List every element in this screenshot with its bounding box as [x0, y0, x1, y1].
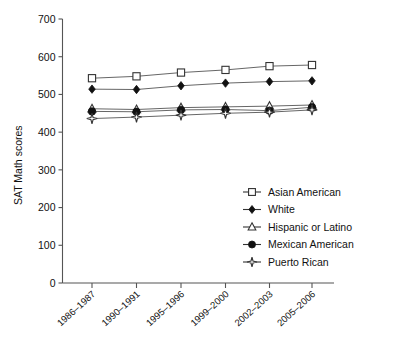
- sat-math-scores-chart: SAT Math scores 0100200300400500600700 1…: [0, 0, 409, 343]
- marker-filled-diamond: [266, 77, 273, 85]
- plot-series-group: [87, 61, 317, 123]
- legend-item-asian-american[interactable]: Asian American: [243, 186, 341, 198]
- marker-open-square: [133, 73, 140, 80]
- series-line: [92, 105, 312, 110]
- series-line: [92, 65, 312, 78]
- y-tick-label: 200: [38, 201, 56, 213]
- legend-label: Puerto Rican: [268, 256, 329, 268]
- marker-open-star: [87, 113, 97, 123]
- marker-filled-diamond: [133, 85, 140, 93]
- legend-label: Hispanic or Latino: [268, 221, 352, 233]
- chart-legend: Asian AmericanWhiteHispanic or LatinoMex…: [243, 186, 354, 268]
- marker-filled-circle: [248, 241, 255, 248]
- y-tick-label: 600: [38, 51, 56, 63]
- y-tick-label: 400: [38, 126, 56, 138]
- marker-filled-diamond: [89, 85, 96, 93]
- series-line: [92, 81, 312, 90]
- y-tick-label: 100: [38, 239, 56, 251]
- marker-open-square: [177, 69, 184, 76]
- marker-open-square: [308, 61, 315, 68]
- marker-filled-diamond: [222, 79, 229, 87]
- marker-open-square: [266, 63, 273, 70]
- marker-open-square: [222, 66, 229, 73]
- legend-item-mexican-american[interactable]: Mexican American: [243, 238, 354, 250]
- x-tick-label: 1995–1996: [144, 288, 187, 328]
- chart-svg: SAT Math scores 0100200300400500600700 1…: [0, 0, 409, 343]
- legend-label: Asian American: [268, 186, 341, 198]
- series-line: [92, 110, 312, 119]
- legend-item-puerto-rican[interactable]: Puerto Rican: [243, 256, 329, 268]
- legend-label: White: [268, 203, 295, 215]
- y-axis-ticks: 0100200300400500600700: [38, 13, 63, 289]
- legend-label: Mexican American: [268, 238, 354, 250]
- x-tick-label: 1986–1987: [55, 288, 98, 328]
- marker-open-star: [247, 257, 257, 267]
- marker-filled-diamond: [249, 206, 255, 214]
- series-asian-american: [88, 61, 315, 81]
- marker-open-square: [249, 189, 256, 196]
- series-white: [89, 77, 316, 94]
- y-axis-title: SAT Math scores: [12, 125, 24, 205]
- legend-item-hispanic-or-latino[interactable]: Hispanic or Latino: [243, 221, 352, 233]
- x-tick-label: 1990–1991: [99, 288, 142, 328]
- x-axis-ticks: 1986–19871990–19911995–19961999–20002002…: [55, 283, 318, 328]
- x-tick-label: 2005–2006: [275, 288, 318, 328]
- x-tick-label: 1999–2000: [188, 288, 231, 328]
- marker-filled-diamond: [178, 82, 185, 90]
- legend-item-white[interactable]: White: [243, 203, 295, 215]
- y-tick-label: 300: [38, 164, 56, 176]
- y-tick-label: 700: [38, 13, 56, 25]
- series-hispanic-or-latino: [88, 101, 316, 113]
- marker-filled-diamond: [309, 77, 316, 85]
- marker-open-triangle: [248, 223, 256, 230]
- marker-open-square: [88, 75, 95, 82]
- x-tick-label: 2002–2003: [232, 288, 275, 328]
- y-tick-label: 0: [50, 277, 56, 289]
- y-tick-label: 500: [38, 88, 56, 100]
